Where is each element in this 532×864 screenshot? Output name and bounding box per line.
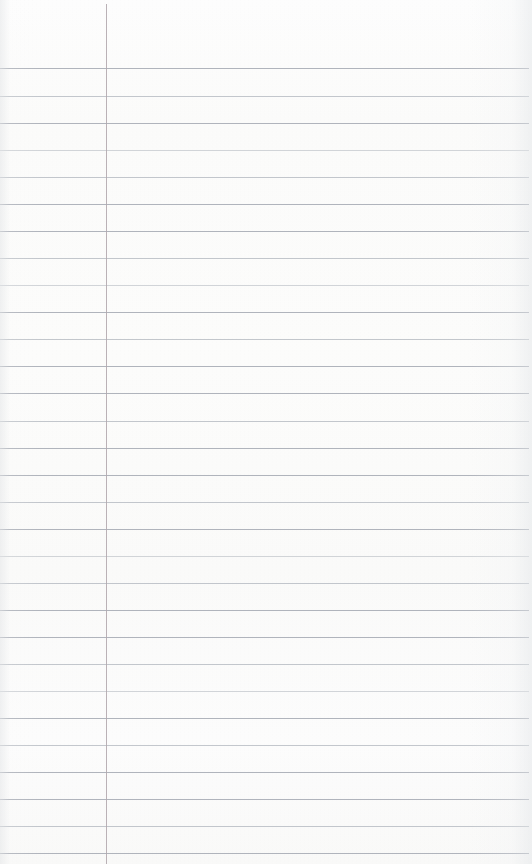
writing-area (107, 0, 532, 864)
notebook-page (0, 0, 532, 864)
margin-column (0, 0, 106, 864)
